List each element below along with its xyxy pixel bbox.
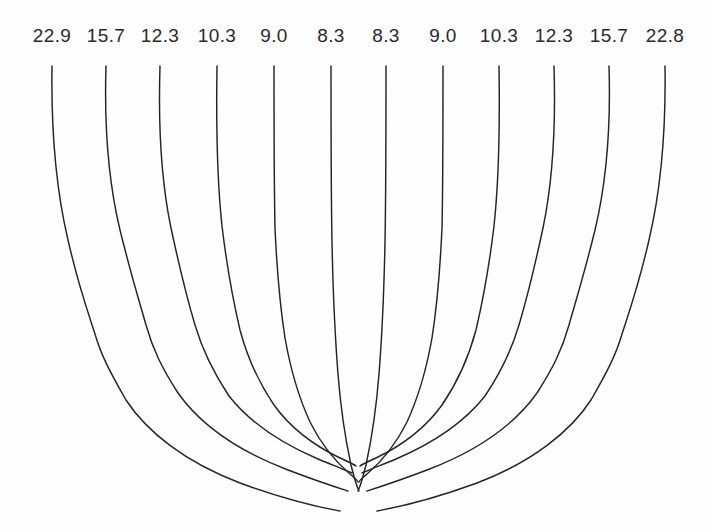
figure-container: 22.9 15.7 12.3 10.3 9.0 8.3 8.3 9.0 10.3… [0,0,712,532]
streamline-curve [52,66,340,511]
streamline-curve [360,66,499,466]
streamline-curve [362,66,555,473]
streamline-curve [159,66,352,473]
streamline-curve [331,66,359,491]
streamline-curve [377,66,665,511]
streamline-plot [0,0,712,532]
streamline-curve [358,66,386,491]
streamline-curve [106,66,348,491]
streamline-curve [367,66,609,491]
